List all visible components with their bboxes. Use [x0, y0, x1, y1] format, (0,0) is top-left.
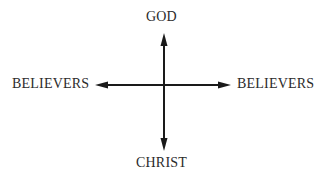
arrow-right-icon [218, 82, 231, 89]
arrow-up-icon [161, 33, 168, 46]
cross-arrows-diagram [0, 0, 325, 178]
arrow-left-icon [95, 82, 108, 89]
arrow-down-icon [161, 138, 168, 151]
